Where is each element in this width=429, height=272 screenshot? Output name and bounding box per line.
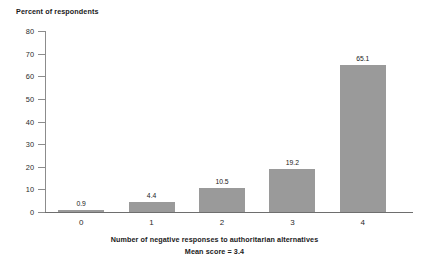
x-axis-tick-label: 2 (202, 218, 242, 227)
y-axis-tick-label: 40 (12, 118, 34, 127)
x-axis-line (38, 212, 413, 213)
y-axis-tick-label: 70 (12, 50, 34, 59)
y-axis-tick-label: 0 (12, 208, 34, 217)
x-axis-tick-label: 0 (61, 218, 101, 227)
bar-value-label: 19.2 (272, 159, 312, 166)
bar-value-label: 65.1 (343, 55, 383, 62)
y-axis-tick-label: 30 (12, 140, 34, 149)
bar (199, 188, 245, 212)
y-axis-tick (38, 189, 45, 190)
y-axis-tick (38, 31, 45, 32)
bar-chart: Percent of respondents 01020304050607080… (0, 0, 429, 272)
y-axis-tick (38, 99, 45, 100)
bar (58, 210, 104, 212)
y-axis-tick-label: 80 (12, 27, 34, 36)
y-axis-tick (38, 167, 45, 168)
y-axis-tick-label: 10 (12, 185, 34, 194)
y-axis-tick (38, 76, 45, 77)
mean-score-annotation: Mean score = 3.4 (0, 247, 429, 256)
bar (269, 169, 315, 212)
y-axis-tick (38, 212, 45, 213)
bar-value-label: 10.5 (202, 178, 242, 185)
y-axis-tick-label: 50 (12, 95, 34, 104)
bar (129, 202, 175, 212)
y-axis-line (45, 31, 46, 213)
x-axis-title: Number of negative responses to authorit… (0, 235, 429, 244)
x-axis-tick-label: 3 (272, 218, 312, 227)
y-axis-tick (38, 122, 45, 123)
bar-value-label: 4.4 (132, 192, 172, 199)
y-axis-tick (38, 144, 45, 145)
y-axis-title: Percent of respondents (16, 7, 98, 16)
x-axis-tick-label: 4 (343, 218, 383, 227)
y-axis-tick-label: 60 (12, 72, 34, 81)
y-axis-tick (38, 54, 45, 55)
bar-value-label: 0.9 (61, 200, 101, 207)
bar (340, 65, 386, 212)
x-axis-tick-label: 1 (132, 218, 172, 227)
y-axis-tick-label: 20 (12, 163, 34, 172)
